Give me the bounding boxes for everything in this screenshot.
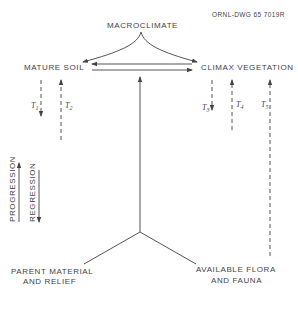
node-flora-fauna-line1: AVAILABLE FLORA — [196, 265, 276, 274]
node-parent-material-line2: AND RELIEF — [23, 277, 76, 286]
node-mature-soil: MATURE SOIL — [24, 63, 84, 72]
arrow-macroclimate-to-soil — [83, 32, 141, 62]
node-parent-material-line1: PARENT MATERIAL — [11, 267, 93, 276]
label-t4: T4 — [236, 100, 243, 110]
line-junction-to-flora — [140, 232, 196, 264]
label-t3: T3 — [202, 103, 209, 113]
legend-regression: REGRESSION — [28, 163, 37, 222]
label-t1: T1 — [31, 101, 38, 111]
label-t2: T2 — [65, 101, 72, 111]
node-macroclimate: MACROCLIMATE — [107, 21, 178, 30]
line-junction-to-parent-material — [84, 232, 140, 264]
legend-progression: PROGRESSION — [8, 156, 17, 222]
ecosystem-diagram: ORNL-DWG 65 7019R MACROCLIMATE MATURE SO… — [0, 0, 298, 314]
node-climax-vegetation: CLIMAX VEGETATION — [201, 63, 294, 72]
drawing-id: ORNL-DWG 65 7019R — [212, 11, 285, 18]
label-t5: T5 — [261, 100, 268, 110]
arrow-macroclimate-to-vegetation — [141, 32, 197, 62]
node-flora-fauna-line2: AND FAUNA — [211, 276, 262, 285]
